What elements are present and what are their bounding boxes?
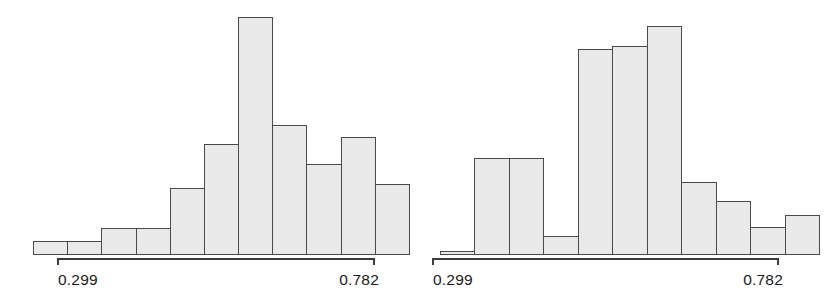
histogram-bar xyxy=(509,158,544,255)
histogram-bar xyxy=(170,188,205,255)
histogram-bar xyxy=(681,182,716,255)
histogram-bar xyxy=(67,241,102,255)
right-histogram-bars xyxy=(415,0,829,299)
right-histogram-axis-bracket xyxy=(432,258,779,265)
histogram-bar xyxy=(238,17,273,255)
histogram-bar xyxy=(341,137,376,255)
right-histogram-tick-label-low: 0.299 xyxy=(433,272,473,288)
histogram-bar xyxy=(306,164,341,255)
histogram-bar xyxy=(716,201,751,255)
histogram-figure: 0.299 0.782 0.299 0.782 xyxy=(0,0,829,299)
histogram-bar xyxy=(474,158,509,255)
histogram-bar xyxy=(750,227,785,255)
histogram-bar xyxy=(578,49,613,255)
histogram-bar xyxy=(101,228,136,255)
histogram-bar xyxy=(440,251,475,255)
right-histogram-tick-label-high: 0.782 xyxy=(735,272,783,288)
left-histogram-panel: 0.299 0.782 xyxy=(0,0,415,299)
left-histogram-plot-area: 0.299 0.782 xyxy=(0,0,415,299)
left-histogram-axis-bracket xyxy=(57,258,375,265)
histogram-bar xyxy=(612,46,647,255)
histogram-bar xyxy=(204,144,239,255)
histogram-bar xyxy=(272,125,307,255)
left-histogram-tick-label-low: 0.299 xyxy=(58,272,98,288)
histogram-bar xyxy=(647,26,682,255)
histogram-bar xyxy=(543,236,578,255)
histogram-bar xyxy=(785,215,820,255)
left-histogram-tick-label-high: 0.782 xyxy=(331,272,379,288)
right-histogram-plot-area: 0.299 0.782 xyxy=(415,0,829,299)
histogram-bar xyxy=(136,228,171,255)
histogram-bar xyxy=(33,241,68,255)
left-histogram-bars xyxy=(0,0,415,299)
right-histogram-panel: 0.299 0.782 xyxy=(415,0,829,299)
histogram-bar xyxy=(375,184,410,255)
